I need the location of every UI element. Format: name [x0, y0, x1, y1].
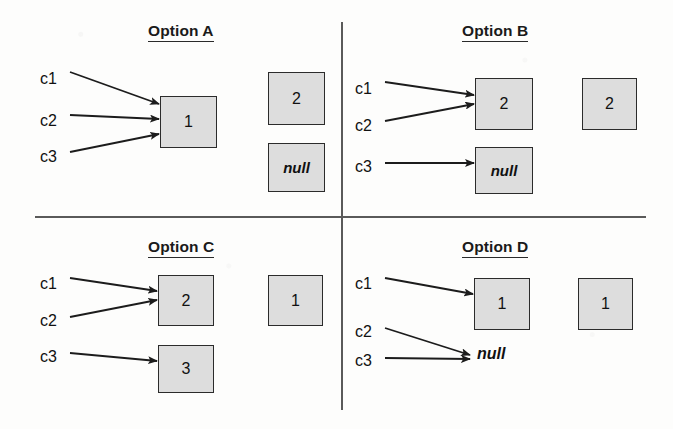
object-box-option-c-box-3: 3 — [158, 345, 214, 393]
object-box-option-c-box-1: 1 — [268, 275, 323, 326]
object-box-option-b-box-null: null — [475, 147, 533, 194]
reference-label-option-a-c2: c2 — [40, 112, 57, 130]
quadrant-title-option-d: Option D — [462, 238, 528, 258]
object-box-option-b-box-2b: 2 — [582, 78, 637, 130]
quadrant-title-option-a: Option A — [148, 22, 214, 42]
bare-null-text-option-d: null — [477, 345, 505, 363]
object-box-option-a-box-1: 1 — [160, 96, 217, 148]
diagram-canvas: Option Ac1c2c312nullOption Bc1c2c322null… — [0, 0, 673, 429]
reference-label-option-b-c1: c1 — [355, 80, 372, 98]
object-box-option-d-box-1b: 1 — [578, 278, 633, 330]
reference-label-option-b-c3: c3 — [355, 158, 372, 176]
reference-label-option-a-c1: c1 — [40, 70, 57, 88]
reference-label-option-c-c1: c1 — [40, 275, 57, 293]
object-box-option-c-box-2: 2 — [158, 275, 214, 326]
reference-label-option-d-c2: c2 — [355, 323, 372, 341]
object-box-option-d-box-1: 1 — [474, 278, 530, 330]
object-box-option-a-box-2: 2 — [268, 72, 325, 125]
reference-label-option-b-c2: c2 — [355, 117, 372, 135]
reference-label-option-c-c2: c2 — [40, 312, 57, 330]
content-layer: Option Ac1c2c312nullOption Bc1c2c322null… — [0, 0, 673, 429]
reference-label-option-a-c3: c3 — [40, 148, 57, 166]
quadrant-title-option-c: Option C — [148, 238, 214, 258]
reference-label-option-d-c3: c3 — [355, 352, 372, 370]
object-box-option-a-box-null: null — [268, 143, 325, 192]
quadrant-title-option-b: Option B — [462, 22, 528, 42]
reference-label-option-d-c1: c1 — [355, 275, 372, 293]
object-box-option-b-box-2: 2 — [475, 78, 533, 130]
reference-label-option-c-c3: c3 — [40, 348, 57, 366]
